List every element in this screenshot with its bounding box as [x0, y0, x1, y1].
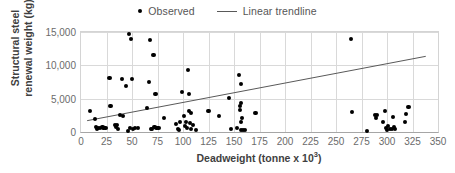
legend-dot-marker-icon — [138, 9, 142, 13]
x-tick-label: 175 — [251, 136, 268, 147]
y-tick-label: 15,000 — [45, 27, 76, 38]
y-tick-label: 0 — [70, 127, 76, 138]
data-point — [151, 53, 155, 57]
data-point — [189, 111, 193, 115]
data-point — [206, 109, 210, 113]
y-tick-label: 10,000 — [45, 60, 76, 71]
data-point — [227, 96, 231, 100]
x-tick-label: 300 — [379, 136, 396, 147]
legend-label-linear-trendline: Linear trendline — [243, 5, 317, 17]
data-point — [406, 105, 410, 109]
plot-area: 05,00010,00015,000 025507510012515017520… — [80, 31, 439, 133]
chart-legend: Observed Linear trendline — [0, 2, 455, 20]
x-axis-title-close: ) — [318, 152, 322, 164]
x-tick-label: 350 — [430, 136, 447, 147]
data-point — [381, 120, 385, 124]
data-point — [88, 109, 92, 113]
data-point — [187, 92, 191, 96]
x-tick-label: 50 — [126, 136, 137, 147]
legend-line-marker-icon — [217, 11, 237, 12]
y-tick-label: 5,000 — [51, 93, 76, 104]
y-axis-title: Structural steel renewal weight (kg) — [5, 0, 39, 114]
x-tick-label: 100 — [175, 136, 192, 147]
x-tick-label: 200 — [277, 136, 294, 147]
data-point — [253, 111, 257, 115]
data-point — [217, 114, 221, 118]
x-tick-label: 225 — [302, 136, 319, 147]
data-point — [180, 90, 184, 94]
x-tick-label: 125 — [200, 136, 217, 147]
x-tick-label: 250 — [328, 136, 345, 147]
data-point — [107, 76, 111, 80]
data-point — [124, 84, 128, 88]
x-tick-label: 275 — [353, 136, 370, 147]
data-point — [391, 115, 395, 119]
data-point — [182, 114, 186, 118]
legend-entry-linear-trendline: Linear trendline — [217, 5, 317, 17]
data-point — [103, 126, 107, 130]
data-point — [129, 37, 133, 41]
data-point — [177, 128, 181, 132]
x-tick-label: 25 — [101, 136, 112, 147]
data-point — [238, 108, 242, 112]
x-axis-title-base: Deadweight (tonne x 10 — [197, 152, 314, 164]
x-axis-title: Deadweight (tonne x 103) — [80, 150, 438, 164]
data-point — [153, 92, 157, 96]
scatter-chart: Observed Linear trendline Structural ste… — [0, 0, 455, 173]
legend-label-observed: Observed — [148, 5, 194, 17]
data-point — [127, 32, 131, 36]
data-point — [365, 129, 369, 133]
x-tick-label: 150 — [226, 136, 243, 147]
data-point — [120, 77, 124, 81]
data-point — [191, 123, 195, 127]
data-point — [189, 127, 193, 131]
y-axis-title-line1: Structural steel — [9, 10, 21, 86]
x-tick-label: 0 — [78, 136, 84, 147]
legend-entry-observed: Observed — [138, 5, 194, 17]
y-axis-title-line2: renewal weight (kg) — [22, 0, 34, 97]
data-point — [375, 113, 379, 117]
x-tick-label: 75 — [152, 136, 163, 147]
x-tick-label: 325 — [404, 136, 421, 147]
linear-trendline — [81, 32, 438, 132]
